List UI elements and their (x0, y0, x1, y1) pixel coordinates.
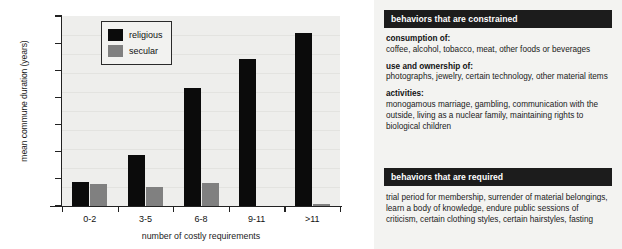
x-axis-line (50, 206, 342, 207)
y-axis-tick (55, 70, 62, 71)
x-axis-tick (62, 206, 63, 212)
x-axis-tick-label: 6-8 (194, 214, 207, 224)
bar-religious-3-5 (128, 155, 145, 206)
bar-secular-0-2 (90, 184, 107, 206)
required-behaviors-text: trial period for membership, surrender o… (384, 186, 612, 226)
y-axis-tick (55, 15, 62, 16)
bar-religious-9-11 (239, 59, 256, 206)
required-behaviors-box: behaviors that are required trial period… (384, 168, 612, 226)
constrained-group-text: photographs, jewelry, certain technology… (386, 72, 610, 83)
y-axis-tick (55, 205, 62, 206)
constrained-behaviors-header: behaviors that are constrained (384, 10, 612, 28)
y-axis-tick (55, 178, 62, 179)
legend-label-religious: religious (129, 30, 163, 40)
legend-item-religious: religious (108, 27, 163, 43)
x-axis-tick-label: 0-2 (83, 214, 96, 224)
constrained-group-title: use and ownership of: (386, 62, 610, 73)
constrained-group: activities:monogamous marriage, gambling… (386, 89, 610, 132)
bar-chart-panel: mean commune duration (years) 0102030405… (0, 0, 352, 249)
constrained-group-title: consumption of: (386, 34, 610, 45)
chart-legend: religious secular (101, 21, 172, 65)
x-axis-tick (229, 206, 230, 212)
constrained-group-text: coffee, alcohol, tobacco, meat, other fo… (386, 45, 610, 56)
bar-secular-3-5 (146, 187, 163, 206)
x-axis-tick (284, 206, 285, 212)
x-axis-tick (173, 206, 174, 212)
constrained-group: consumption of:coffee, alcohol, tobacco,… (386, 34, 610, 56)
y-axis-tick (55, 97, 62, 98)
bar-religious->11 (295, 33, 312, 206)
x-axis-tick-label: >11 (305, 214, 320, 224)
bar-secular-6-8 (202, 183, 219, 206)
figure-root: mean commune duration (years) 0102030405… (0, 0, 622, 249)
legend-swatch-icon-religious (108, 29, 123, 41)
x-axis-tick-label: 3-5 (139, 214, 152, 224)
x-axis-tick-label: 9-11 (248, 214, 265, 224)
y-axis-tick (55, 43, 62, 44)
legend-label-secular: secular (129, 46, 158, 56)
y-axis-tick (55, 124, 62, 125)
legend-swatch-icon-secular (108, 45, 123, 57)
constrained-group-title: activities: (386, 89, 610, 100)
constrained-behaviors-body: consumption of:coffee, alcohol, tobacco,… (384, 28, 612, 133)
bar-religious-6-8 (184, 88, 201, 206)
constrained-group: use and ownership of:photographs, jewelr… (386, 62, 610, 84)
x-axis-tick (118, 206, 119, 212)
x-axis-title: number of costly requirements (62, 231, 340, 241)
legend-item-secular: secular (108, 43, 163, 59)
y-axis-title: mean commune duration (years) (19, 11, 29, 191)
info-panel: behaviors that are constrained consumpti… (374, 0, 622, 249)
required-behaviors-header: behaviors that are required (384, 168, 612, 186)
constrained-behaviors-box: behaviors that are constrained consumpti… (384, 10, 612, 133)
bar-religious-0-2 (72, 182, 89, 206)
x-axis-tick (340, 206, 341, 212)
y-axis-tick (55, 151, 62, 152)
constrained-group-text: monogamous marriage, gambling, communica… (386, 100, 610, 132)
